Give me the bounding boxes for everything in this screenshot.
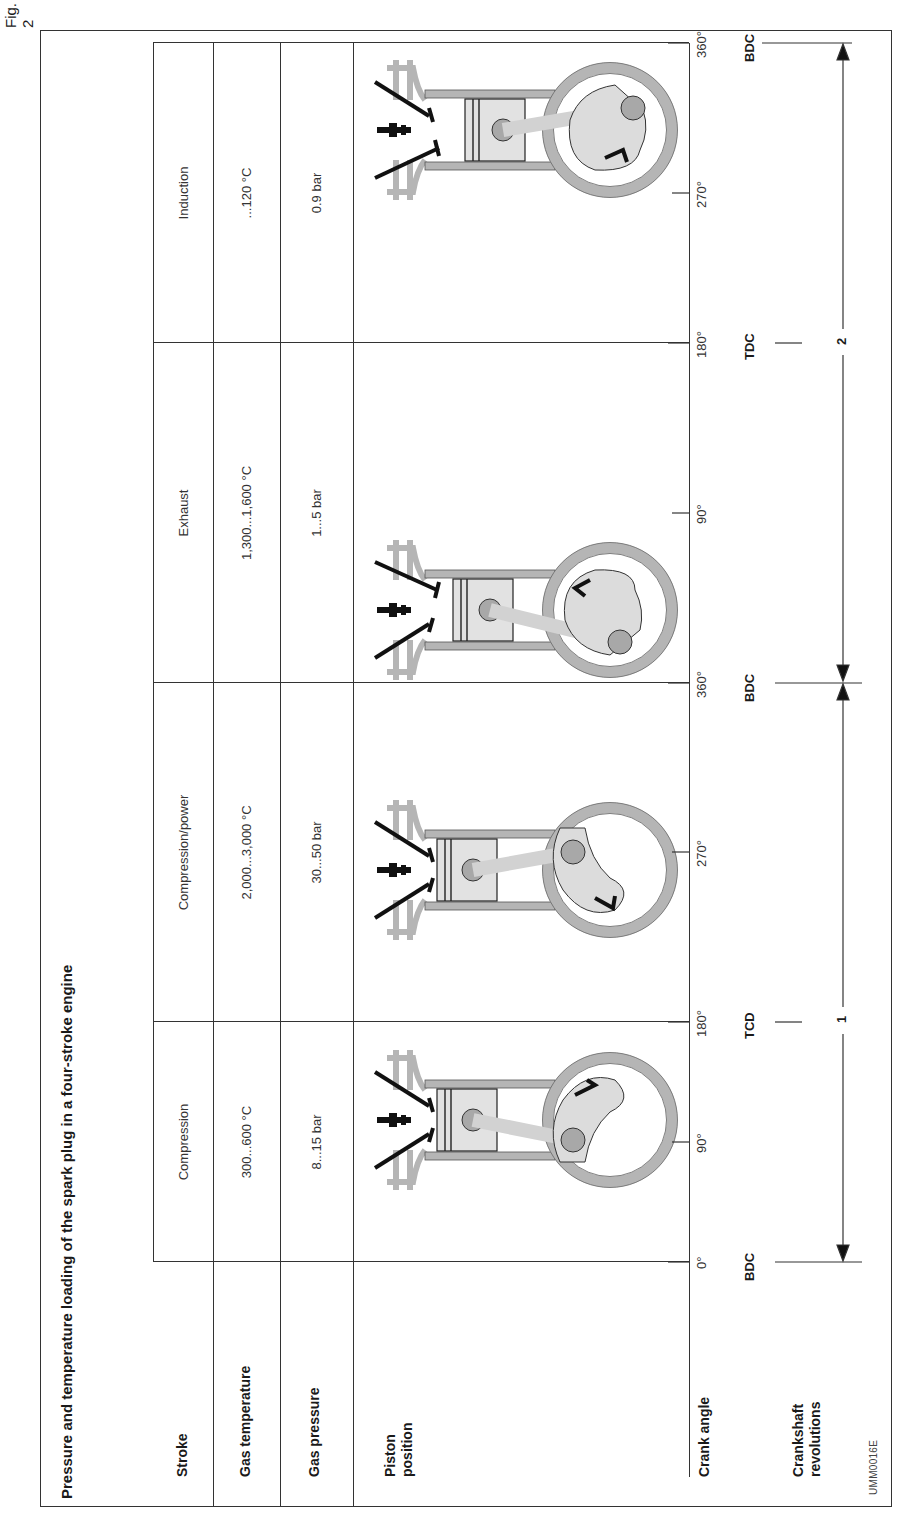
crank-angle-label: 180° — [694, 331, 709, 358]
revolution-number: 2 — [834, 335, 849, 348]
crank-angle-label: 90° — [694, 504, 709, 524]
revolution-number: 1 — [834, 1013, 849, 1026]
crank-angle-label: 270° — [694, 181, 709, 208]
crank-angle-ticks — [668, 43, 689, 1262]
revolution-dimension-lines — [837, 44, 849, 1261]
dead-center-marks — [762, 43, 862, 1262]
crank-angle-label: 0° — [694, 1257, 709, 1269]
dead-center-label: BDC — [742, 1253, 757, 1281]
engine-diagram-compression-power — [375, 800, 678, 940]
engine-diagrams — [0, 0, 922, 1517]
engine-diagram-induction — [375, 60, 678, 200]
dead-center-label: BDC — [742, 674, 757, 702]
crank-angle-label: 360° — [694, 671, 709, 698]
dead-center-label: TCD — [742, 1012, 757, 1039]
figure-canvas: Fig. 2 Pressure and temperature loading … — [0, 0, 922, 1517]
dead-center-label: BDC — [742, 34, 757, 62]
crank-angle-label: 270° — [694, 840, 709, 867]
crank-angle-label: 90° — [694, 1133, 709, 1153]
dead-center-label: TDC — [742, 333, 757, 360]
engine-diagram-exhaust — [375, 540, 678, 680]
engine-diagram-compression — [375, 1050, 678, 1190]
crank-angle-label: 180° — [694, 1010, 709, 1037]
crank-angle-label: 360° — [694, 31, 709, 58]
